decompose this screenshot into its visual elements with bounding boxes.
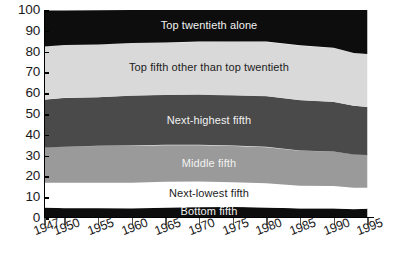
y-axis: 0102030405060708090100 — [0, 0, 40, 236]
y-tick-label: 10 — [6, 190, 40, 204]
y-tick-label: 60 — [6, 86, 40, 100]
y-tick-label: 50 — [6, 107, 40, 121]
x-tick-label: 1980 — [254, 216, 283, 237]
y-tick-mark — [44, 156, 49, 158]
x-tick-label: 1990 — [322, 216, 351, 237]
band-label: Middle fifth — [44, 158, 374, 169]
band-label: Next-highest fifth — [44, 115, 374, 126]
y-tick-label: 30 — [6, 149, 40, 163]
x-tick-label: 1960 — [120, 216, 149, 237]
y-tick-label: 70 — [6, 65, 40, 79]
band-label: Top twentieth alone — [44, 20, 374, 31]
y-tick-mark — [44, 197, 49, 199]
y-tick-label: 90 — [6, 24, 40, 38]
x-tick-label: 1995 — [355, 216, 384, 237]
y-tick-mark — [44, 93, 49, 95]
band-label: Next-lowest fifth — [44, 188, 374, 199]
y-tick-label: 100 — [6, 3, 40, 17]
y-tick-mark — [44, 72, 49, 74]
x-tick-label: 1975 — [221, 216, 250, 237]
y-tick-mark — [44, 114, 49, 116]
y-tick-mark — [44, 135, 49, 137]
x-tick-label: 1955 — [86, 216, 115, 237]
x-tick-label: 1965 — [153, 216, 182, 237]
x-tick-label: 1985 — [288, 216, 317, 237]
band-label: Top fifth other than top twentieth — [44, 62, 374, 73]
y-tick-label: 20 — [6, 169, 40, 183]
y-tick-mark — [44, 52, 49, 54]
y-tick-mark — [44, 31, 49, 33]
y-tick-mark — [44, 10, 49, 12]
x-tick-label: 1970 — [187, 216, 216, 237]
chart-figure: 0102030405060708090100 Top twentieth alo… — [0, 0, 400, 256]
y-tick-mark — [44, 176, 49, 178]
y-tick-label: 40 — [6, 128, 40, 142]
y-tick-label: 80 — [6, 45, 40, 59]
